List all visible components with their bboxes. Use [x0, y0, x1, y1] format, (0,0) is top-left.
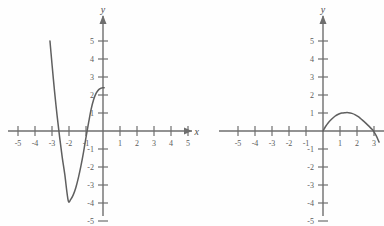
- right-y-axis-arrowhead: [320, 15, 327, 24]
- right-y-axis-label: y: [320, 4, 326, 15]
- right-graph-svg: -5 -4 -3 -2 -1 1 2 3 5 4 3 2 1 -1 -2 -3 …: [200, 0, 384, 226]
- right-x-tick-label-neg4: -4: [252, 139, 259, 148]
- left-x-tick-label-4: 4: [169, 139, 173, 148]
- left-y-axis-label: y: [100, 4, 106, 15]
- left-x-tick-label-5: 5: [186, 139, 190, 148]
- right-y-tick-label-neg1: -1: [307, 145, 314, 154]
- right-x-tick-label-1: 1: [338, 139, 342, 148]
- left-y-axis-arrowhead: [100, 15, 107, 24]
- right-y-tick-label-3: 3: [310, 73, 314, 82]
- right-arch-curve: [323, 113, 379, 143]
- right-y-tick-label-neg2: -2: [307, 163, 314, 172]
- right-x-tick-label-2: 2: [355, 139, 359, 148]
- left-x-tick-label-3: 3: [152, 139, 156, 148]
- right-y-tick-label-neg3: -3: [307, 181, 314, 190]
- right-x-tick-label-neg5: -5: [235, 139, 242, 148]
- right-y-tick-label-2: 2: [310, 91, 314, 100]
- left-cubic-curve: [50, 41, 104, 202]
- graph-figure: -5 -4 -3 -2 -1 1 2 3 4 5 5 4 3 2 1 -1 -2…: [0, 0, 384, 226]
- left-x-tick-label-neg2: -2: [66, 139, 73, 148]
- right-y-tick-label-neg4: -4: [307, 199, 314, 208]
- left-y-tick-label-neg3: -3: [87, 181, 94, 190]
- left-x-tick-label-neg4: -4: [32, 139, 39, 148]
- left-x-tick-label-neg5: -5: [15, 139, 22, 148]
- right-y-tick-label-1: 1: [310, 109, 314, 118]
- left-graph-panel: -5 -4 -3 -2 -1 1 2 3 4 5 5 4 3 2 1 -1 -2…: [0, 0, 200, 226]
- left-x-tick-label-2: 2: [135, 139, 139, 148]
- right-x-tick-label-neg2: -2: [286, 139, 293, 148]
- left-y-tick-label-4: 4: [90, 55, 94, 64]
- right-y-tick-label-5: 5: [310, 37, 314, 46]
- left-y-tick-label-neg2: -2: [87, 163, 94, 172]
- left-x-tick-label-1: 1: [118, 139, 122, 148]
- right-y-tick-label-neg5: -5: [307, 217, 314, 226]
- left-x-tick-label-neg3: -3: [49, 139, 56, 148]
- left-y-tick-label-3: 3: [90, 73, 94, 82]
- left-graph-svg: -5 -4 -3 -2 -1 1 2 3 4 5 5 4 3 2 1 -1 -2…: [0, 0, 200, 226]
- left-y-tick-label-5: 5: [90, 37, 94, 46]
- left-x-axis-label: x: [194, 126, 200, 137]
- right-graph-panel: -5 -4 -3 -2 -1 1 2 3 5 4 3 2 1 -1 -2 -3 …: [200, 0, 384, 226]
- right-x-tick-label-3: 3: [372, 139, 376, 148]
- right-y-tick-label-4: 4: [310, 55, 314, 64]
- right-x-tick-label-neg3: -3: [269, 139, 276, 148]
- left-y-tick-label-neg1: -1: [87, 145, 94, 154]
- left-y-tick-label-neg4: -4: [87, 199, 94, 208]
- left-y-tick-label-neg5: -5: [87, 217, 94, 226]
